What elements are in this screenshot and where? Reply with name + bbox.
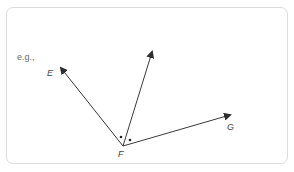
ray-bisector xyxy=(123,52,152,146)
angle-bisector-diagram xyxy=(0,0,294,172)
ray-fe xyxy=(61,68,123,146)
angle-mark-dot xyxy=(120,136,123,139)
label-f: F xyxy=(118,149,124,159)
label-e: E xyxy=(47,68,53,78)
angle-mark-dot xyxy=(129,139,132,142)
ray-fg xyxy=(123,115,230,146)
label-g: G xyxy=(227,122,234,132)
